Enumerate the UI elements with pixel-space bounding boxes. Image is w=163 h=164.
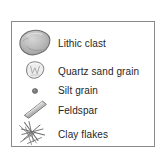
legend-item-label: Silt grain [58,85,154,96]
legend-item-feldspar: Feldspar [12,99,154,121]
legend-item-label: Clay flakes [58,129,154,140]
silt-grain-symbol [12,84,58,98]
legend-item-clay-flakes: Clay flakes [12,121,154,147]
legend-item-quartz-sand-grain: Quartz sand grain [12,60,154,82]
legend-item-silt-grain: Silt grain [12,82,154,99]
legend-frame: Lithic clast Quartz sand grain [11,21,155,147]
clay-flakes-symbol [12,120,58,148]
legend-rows: Lithic clast Quartz sand grain [12,22,154,146]
quartz-sand-grain-symbol [12,60,58,82]
legend-item-label: Quartz sand grain [58,66,154,77]
legend-item-lithic-clast: Lithic clast [12,26,154,60]
lithic-clast-symbol [12,28,58,58]
legend-item-label: Feldspar [58,105,154,116]
legend-canvas: Lithic clast Quartz sand grain [0,0,163,164]
feldspar-symbol [12,98,58,122]
legend-item-label: Lithic clast [58,38,154,49]
